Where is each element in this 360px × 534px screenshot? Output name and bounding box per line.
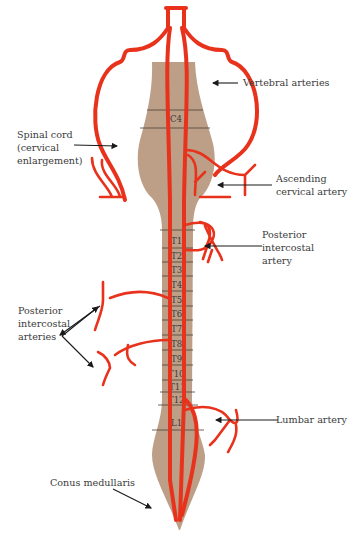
segment-t3: T3: [171, 265, 182, 275]
label-ascending-line1: Ascending: [275, 173, 327, 184]
label-lumbar-artery: Lumbar artery: [276, 414, 348, 425]
label-spinal-cord-line2: (cervical: [17, 142, 59, 153]
spinal-cord-diagram: C4 T1 T2 T3 T4 T5 T6 T7 T8 T9 T10 T11 T1…: [0, 0, 360, 534]
segment-t1: T1: [171, 236, 182, 246]
segment-t7: T7: [171, 324, 182, 334]
label-post-intercostal-right-line1: Posterior: [262, 229, 307, 240]
segment-l1: L1: [171, 418, 182, 428]
segment-t5: T5: [171, 295, 182, 305]
label-post-intercostal-left-line2: intercostal: [18, 318, 70, 329]
arrow-conus: [113, 489, 151, 508]
segment-t8: T8: [171, 339, 182, 349]
label-spinal-cord-line3: enlargement): [17, 155, 83, 166]
arrow-spinal-cord: [74, 145, 117, 146]
arrow-post-intercostal-left-b: [62, 336, 93, 367]
label-spinal-cord-line1: Spinal cord: [17, 129, 73, 140]
label-post-intercostal-right-line3: artery: [262, 255, 292, 266]
label-post-intercostal-left-line3: arteries: [18, 331, 56, 342]
label-vertebral-arteries: Vertebral arteries: [242, 77, 330, 88]
segment-t2: T2: [171, 251, 182, 261]
label-post-intercostal-right-line2: intercostal: [262, 242, 314, 253]
segment-t4: T4: [171, 280, 182, 290]
segment-c4: C4: [170, 114, 182, 124]
label-conus-medullaris: Conus medullaris: [50, 477, 135, 488]
label-ascending-line2: cervical artery: [276, 186, 348, 197]
label-post-intercostal-left-line1: Posterior: [18, 305, 63, 316]
segment-t6: T6: [171, 309, 182, 319]
segment-t9: T9: [171, 354, 182, 364]
